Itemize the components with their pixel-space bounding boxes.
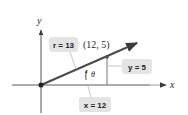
y-axis-label: y <box>36 15 42 26</box>
point-marker <box>105 55 109 59</box>
x-callout-leader <box>88 86 91 98</box>
angle-label: θ <box>91 70 95 79</box>
x-callout-text: x = 12 <box>84 101 107 110</box>
point-label: (12, 5) <box>83 39 110 51</box>
y-callout-text: y = 5 <box>128 63 147 72</box>
r-callout-leader <box>70 52 76 69</box>
trig-diagram: x y (12, 5) θ r = 13 y = 5 x = 12 <box>0 0 188 115</box>
angle-arc-icon <box>86 70 87 80</box>
origin-point <box>39 83 44 88</box>
r-callout-text: r = 13 <box>53 41 75 50</box>
x-axis-label: x <box>169 79 175 90</box>
